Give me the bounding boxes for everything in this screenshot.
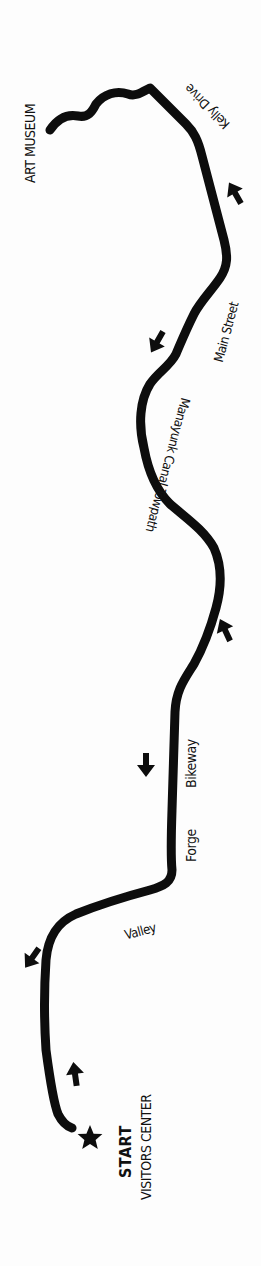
arrow-main-icon [143,327,171,357]
label-visitors-center: VISITORS CENTER [138,1095,154,1200]
route-line [45,88,227,1128]
arrow-bikeway-icon [137,753,155,777]
label-start: START [116,1125,135,1178]
label-forge: Forge [183,829,199,862]
star-icon [78,1125,103,1149]
label-art-museum: ART MUSEUM [22,104,38,183]
arrow-start-icon [64,1061,85,1087]
label-bikeway: Bikeway [183,739,199,788]
arrow-kelly-icon [221,178,249,208]
route-map [0,0,261,1266]
